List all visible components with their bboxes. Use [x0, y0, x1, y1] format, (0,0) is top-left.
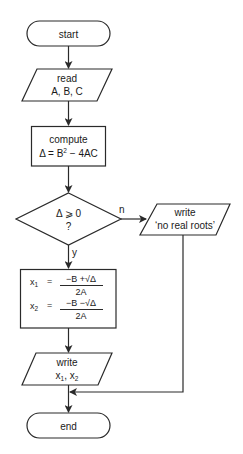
x1-denominator: 2A — [75, 287, 86, 297]
svg-text:=: = — [47, 276, 52, 286]
start-terminal: start — [27, 21, 110, 46]
decision-diamond: Δ ⩾ 0 ? n y — [16, 193, 125, 258]
write-roots-line1: write — [55, 357, 78, 368]
svg-text:=: = — [47, 300, 52, 310]
read-input-box: read A, B, C — [22, 69, 112, 101]
start-label: start — [59, 29, 79, 40]
roots-process-box: x1 = −B +√Δ 2A x2 = −B −√Δ 2A — [21, 270, 117, 329]
read-line2: A, B, C — [51, 86, 83, 97]
no-roots-line2: ‘no real roots’ — [155, 220, 215, 231]
read-line1: read — [57, 73, 77, 84]
x2-denominator: 2A — [75, 311, 86, 321]
end-label: end — [60, 421, 77, 432]
decision-line1: Δ ⩾ 0 — [56, 208, 82, 219]
x2-numerator: −B −√Δ — [66, 298, 96, 308]
compute-process-box: compute Δ = B2 − 4AC — [32, 127, 106, 167]
write-roots-box: write x1, x2 — [22, 353, 112, 385]
x1-numerator: −B +√Δ — [66, 274, 96, 284]
write-no-roots-box: write ‘no real roots’ — [140, 204, 230, 235]
decision-yes-label: y — [72, 247, 77, 258]
compute-line2: Δ = B2 − 4AC — [39, 147, 98, 159]
decision-no-label: n — [119, 204, 125, 215]
flowchart: start read A, B, C compute Δ = B2 − 4AC … — [0, 0, 243, 454]
decision-line2: ? — [66, 221, 72, 232]
no-roots-line1: write — [173, 207, 196, 218]
end-terminal: end — [27, 413, 110, 438]
compute-line1: compute — [49, 134, 88, 145]
